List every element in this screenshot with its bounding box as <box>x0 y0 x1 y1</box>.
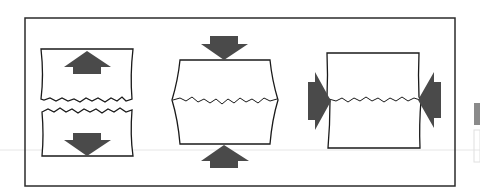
arrow-down-icon <box>201 36 248 60</box>
arrow-up-icon <box>201 145 249 168</box>
arrow-left-icon <box>418 72 441 128</box>
fracture-modes-diagram <box>0 0 480 192</box>
panel-compression <box>172 36 278 168</box>
panel-tension <box>41 49 133 156</box>
panel-shear <box>308 53 441 148</box>
